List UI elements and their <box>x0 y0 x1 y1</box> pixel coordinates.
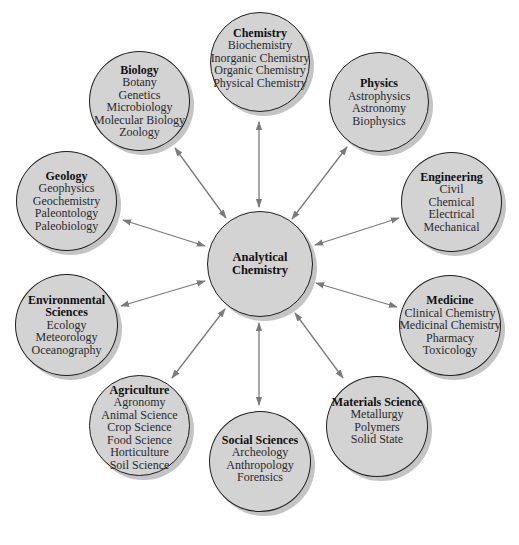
node-item: Archeology <box>232 446 289 459</box>
arrow-biology <box>175 148 226 218</box>
node-title: Medicine <box>426 294 473 307</box>
node-item: Horticulture <box>110 446 169 459</box>
node-item: Physical Chemistry <box>213 77 307 90</box>
node-item: Mechanical <box>424 221 480 234</box>
node-item: Agronomy <box>114 396 166 409</box>
node-item: Solid State <box>351 433 403 446</box>
node-item: Paleobiology <box>35 220 98 233</box>
node-chemistry: Chemistry Biochemistry Inorganic Chemist… <box>210 12 310 112</box>
node-item: Crop Science <box>107 421 171 434</box>
node-item: Geophysics <box>39 182 95 195</box>
node-item: Medicinal Chemistry <box>399 319 501 332</box>
arrow-physics <box>292 147 347 219</box>
node-title: Sciences <box>45 306 88 319</box>
node-item: Organic Chemistry <box>214 64 305 77</box>
node-item: Astronomy <box>352 102 406 115</box>
node-geology: Geology Geophysics Geochemistry Paleonto… <box>16 151 117 251</box>
node-item: Biophysics <box>352 115 405 128</box>
node-item: Zoology <box>119 126 160 139</box>
node-engineering: Engineering Civil Chemical Electrical Me… <box>401 152 502 252</box>
analytical-chemistry-diagram: Analytical Chemistry Chemistry Biochemis… <box>0 0 519 545</box>
node-item: Oceanography <box>32 344 102 357</box>
node-item: Civil <box>439 183 463 196</box>
arrow-geology <box>123 220 205 246</box>
node-biology: Biology Botany Genetics Microbiology Mol… <box>89 51 190 151</box>
node-social-sciences: Social Sciences Archeology Anthropology … <box>209 411 311 512</box>
node-item: Biochemistry <box>228 39 293 52</box>
node-item: Paleontology <box>35 207 98 220</box>
arrow-environmental-sciences <box>121 281 205 306</box>
node-environmental-sciences: Environmental Sciences Ecology Meteorolo… <box>15 274 118 376</box>
node-item: Meteorology <box>36 331 98 344</box>
node-item: Botany <box>122 76 157 89</box>
arrow-agriculture <box>172 309 225 378</box>
arrow-materials-science <box>295 313 343 378</box>
node-medicine: Medicine Clinical Chemistry Medicinal Ch… <box>399 275 501 376</box>
node-item: Electrical <box>429 208 475 221</box>
node-physics: Physics Astrophysics Astronomy Biophysic… <box>329 52 429 152</box>
arrow-medicine <box>316 283 397 307</box>
node-item: Toxicology <box>423 344 478 357</box>
node-item: Metallurgy <box>350 408 403 421</box>
node-item: Soil Science <box>110 459 170 472</box>
node-title: Physics <box>360 77 398 90</box>
node-item: Microbiology <box>107 101 173 114</box>
node-materials-science: Materials Science Metallurgy Polymers So… <box>326 376 428 477</box>
node-title: Chemistry <box>232 264 288 277</box>
node-agriculture: Agriculture Agronomy Animal Science Crop… <box>89 375 190 476</box>
node-item: Forensics <box>237 471 283 484</box>
node-analytical-chemistry: Analytical Chemistry <box>207 211 313 317</box>
arrow-engineering <box>315 218 399 245</box>
